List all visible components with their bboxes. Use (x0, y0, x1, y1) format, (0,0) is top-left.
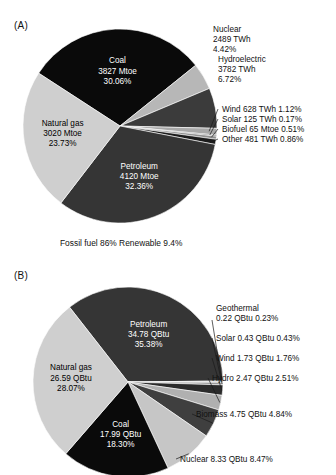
slice-label-text: Coal (112, 420, 129, 429)
slice-label-text: 32.36% (125, 182, 153, 191)
slice-callout-text: Geothermal (216, 304, 259, 313)
slice-label-text: 35.38% (135, 340, 163, 349)
slice-callout-text: Biomass 4.75 QBtu 4.84% (196, 410, 292, 419)
slice-callout-text: Other 481 TWh 0.86% (222, 135, 303, 144)
slice-callout-text: 3782 TWh (218, 65, 256, 74)
slice-label-text: 17.99 QBtu (100, 430, 142, 439)
slice-callout-text: Hydroelectric (218, 55, 266, 64)
slice-label-text: 23.73% (49, 139, 77, 148)
slice-label-text: 34.78 QBtu (128, 330, 170, 339)
slice-callout-text: Solar 0.43 QBtu 0.43% (216, 334, 300, 343)
panel-b: (B) Petroleum34.78 QBtu35.38%Geothermal0… (0, 258, 336, 475)
panel-a: (A) Coal3827 Mtoe30.06%Nuclear2489 TWh4.… (0, 0, 336, 258)
slice-callout-text: Solar 125 TWh 0.17% (222, 115, 302, 124)
slice-label-text: 4120 Mtoe (120, 172, 159, 181)
slice-label-text: 26.59 QBtu (50, 374, 92, 383)
slice-label-text: 28.07% (57, 384, 85, 393)
slice-callout-text: Wind 628 TWh 1.12% (222, 105, 302, 114)
slice-label-text: 3827 Mtoe (98, 67, 137, 76)
slice-label-text: Petroleum (130, 320, 167, 329)
slice-label-text: Petroleum (121, 162, 158, 171)
slice-label-text: Coal (109, 56, 126, 65)
slice-callout-text: 4.42% (213, 45, 236, 54)
slice-callout-text: Nuclear (213, 25, 241, 34)
slice-callout-text: 6.72% (218, 75, 241, 84)
slice-label-text: 3020 Mtoe (43, 129, 82, 138)
slice-label-text: 18.30% (107, 440, 135, 449)
slice-label-text: Natural gas (50, 363, 92, 372)
panel-a-caption: Fossil fuel 86% Renewable 9.4% (60, 238, 182, 248)
slice-callout-text: 0.22 QBtu 0.23% (216, 314, 278, 323)
slice-label-text: Natural gas (42, 119, 84, 128)
slice-callout-text: Wind 1.73 QBtu 1.76% (216, 354, 299, 363)
slice-callout-text: Nuclear 8.33 QBtu 8.47% (180, 455, 273, 464)
pie-chart-b: Petroleum34.78 QBtu35.38%Geothermal0.22 … (0, 258, 336, 475)
slice-callout-text: Hydro 2.47 QBtu 2.51% (212, 374, 298, 383)
slice-callout-text: Biofuel 65 Mtoe 0.51% (222, 125, 304, 134)
pie-chart-a: Coal3827 Mtoe30.06%Nuclear2489 TWh4.42%H… (0, 0, 336, 258)
slice-callout-text: 2489 TWh (213, 35, 251, 44)
slice-label-text: 30.06% (104, 77, 132, 86)
